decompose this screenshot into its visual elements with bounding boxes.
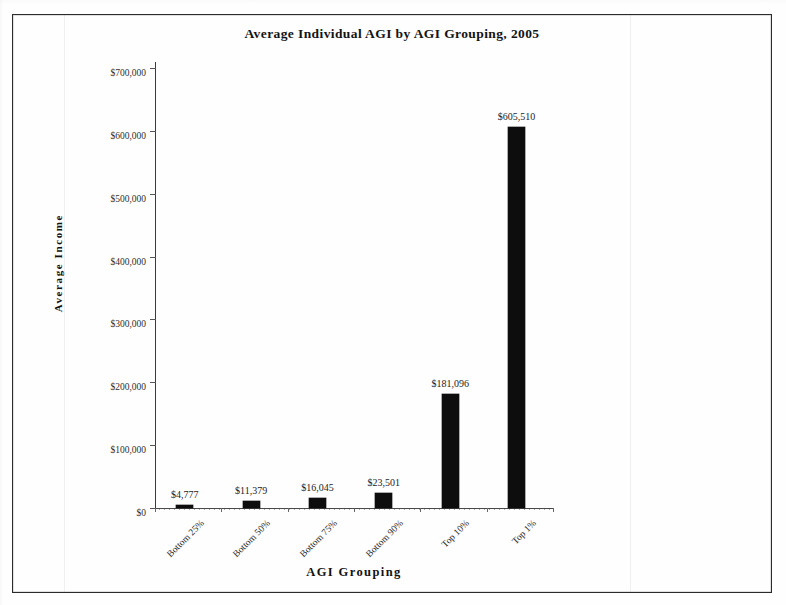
x-minor-tick	[249, 508, 250, 510]
y-axis-title: Average Income	[52, 214, 64, 312]
bar-value-label: $605,510	[498, 111, 536, 122]
x-axis-title: AGI Grouping	[155, 565, 553, 580]
y-tick-label: $700,000	[110, 68, 146, 78]
bar-value-label: $181,096	[431, 378, 469, 389]
x-minor-tick	[209, 508, 210, 510]
x-minor-tick	[404, 508, 405, 510]
y-tick-label-wrap: $300,000	[20, 313, 146, 325]
x-minor-tick	[324, 508, 325, 510]
y-tick-label: $400,000	[110, 257, 146, 267]
x-category-label: Top 1%	[510, 518, 538, 546]
x-minor-tick	[334, 508, 335, 510]
x-minor-tick	[294, 508, 295, 510]
x-minor-tick	[304, 508, 305, 510]
x-minor-tick	[179, 508, 180, 510]
y-tick-label: $100,000	[110, 445, 146, 455]
x-category-label: Bottom 90%	[364, 518, 405, 559]
x-minor-tick	[419, 508, 420, 510]
x-minor-tick	[369, 508, 370, 510]
x-minor-tick	[229, 508, 230, 510]
x-minor-tick	[494, 508, 495, 510]
x-category-label: Bottom 50%	[231, 518, 272, 559]
x-minor-tick	[254, 508, 255, 510]
x-minor-tick	[269, 508, 270, 510]
x-minor-tick	[374, 508, 375, 510]
x-minor-tick	[339, 508, 340, 510]
y-tick	[150, 257, 156, 258]
y-tick-label-wrap: $0	[20, 502, 146, 514]
y-axis-line	[155, 62, 156, 509]
x-minor-tick	[319, 508, 320, 510]
x-minor-tick	[159, 508, 160, 510]
y-tick	[150, 68, 156, 69]
scanned-page: Average Individual AGI by AGI Grouping, …	[0, 0, 786, 605]
x-minor-tick	[434, 508, 435, 510]
x-minor-tick	[354, 508, 355, 510]
x-minor-tick	[279, 508, 280, 510]
y-tick	[150, 131, 156, 132]
x-minor-tick	[499, 508, 500, 510]
x-minor-tick	[524, 508, 525, 510]
x-minor-tick	[479, 508, 480, 510]
y-tick-label-wrap: $100,000	[20, 439, 146, 451]
x-tick	[221, 508, 222, 512]
x-minor-tick	[389, 508, 390, 510]
x-minor-tick	[329, 508, 330, 510]
x-minor-tick	[299, 508, 300, 510]
x-minor-tick	[429, 508, 430, 510]
x-minor-tick	[344, 508, 345, 510]
y-tick-label-wrap: $600,000	[20, 125, 146, 137]
bar-value-label: $4,777	[171, 489, 199, 500]
bar-value-label: $16,045	[301, 482, 334, 493]
bar	[508, 127, 525, 508]
x-tick	[155, 508, 156, 512]
bar	[375, 493, 392, 508]
x-minor-tick	[274, 508, 275, 510]
bar	[243, 501, 260, 508]
x-minor-tick	[474, 508, 475, 510]
y-tick-label-wrap: $700,000	[20, 62, 146, 74]
x-minor-tick	[284, 508, 285, 510]
x-minor-tick	[394, 508, 395, 510]
x-minor-tick	[234, 508, 235, 510]
y-tick	[150, 382, 156, 383]
x-minor-tick	[189, 508, 190, 510]
y-tick-label: $500,000	[110, 194, 146, 204]
x-minor-tick	[519, 508, 520, 510]
y-tick	[150, 445, 156, 446]
y-tick-label: $0	[137, 508, 147, 518]
y-tick-label-wrap: $200,000	[20, 376, 146, 388]
x-minor-tick	[544, 508, 545, 510]
x-minor-tick	[379, 508, 380, 510]
x-minor-tick	[504, 508, 505, 510]
x-minor-tick	[184, 508, 185, 510]
x-minor-tick	[309, 508, 310, 510]
y-tick	[150, 319, 156, 320]
x-minor-tick	[384, 508, 385, 510]
x-minor-tick	[359, 508, 360, 510]
x-minor-tick	[424, 508, 425, 510]
x-minor-tick	[549, 508, 550, 510]
x-minor-tick	[264, 508, 265, 510]
chart-title: Average Individual AGI by AGI Grouping, …	[12, 26, 772, 42]
x-minor-tick	[314, 508, 315, 510]
x-minor-tick	[164, 508, 165, 510]
x-minor-tick	[349, 508, 350, 510]
bar-value-label: $11,379	[235, 485, 267, 496]
x-minor-tick	[444, 508, 445, 510]
x-minor-tick	[534, 508, 535, 510]
x-minor-tick	[259, 508, 260, 510]
y-tick-label-wrap: $500,000	[20, 188, 146, 200]
x-minor-tick	[469, 508, 470, 510]
x-minor-tick	[414, 508, 415, 510]
bar	[442, 394, 459, 508]
x-minor-tick	[399, 508, 400, 510]
x-minor-tick	[464, 508, 465, 510]
x-minor-tick	[199, 508, 200, 510]
y-tick-label-wrap: $400,000	[20, 251, 146, 263]
x-minor-tick	[289, 508, 290, 510]
x-minor-tick	[454, 508, 455, 510]
y-tick-label: $300,000	[110, 319, 146, 329]
x-minor-tick	[489, 508, 490, 510]
y-tick	[150, 194, 156, 195]
